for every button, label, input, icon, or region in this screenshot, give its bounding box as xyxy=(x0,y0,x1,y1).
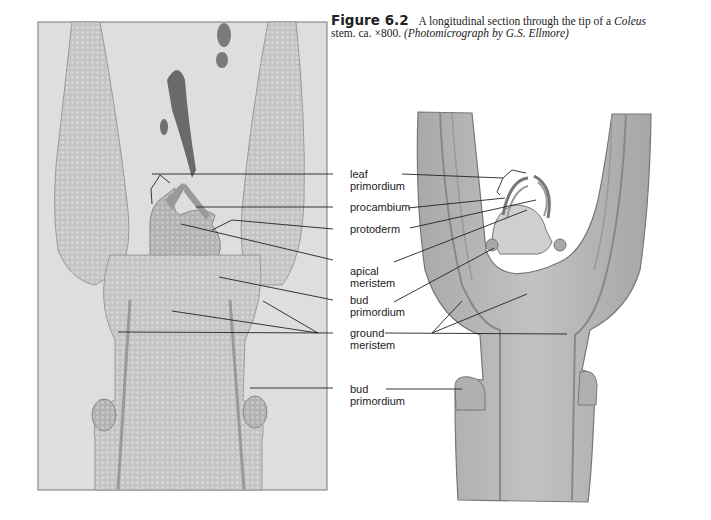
label-bud-primordium-lower: bud primordium xyxy=(350,383,405,407)
stem-drawing xyxy=(385,112,651,502)
label-leaf-primordium: leaf primordium xyxy=(350,168,405,192)
label-protoderm: protoderm xyxy=(350,223,400,235)
label-procambium: procambium xyxy=(350,201,411,213)
label-apical-meristem: apical meristem xyxy=(350,265,395,289)
label-bud-primordium-upper: bud primordium xyxy=(350,294,405,318)
photomicrograph xyxy=(0,0,711,520)
label-ground-meristem: ground meristem xyxy=(350,327,395,351)
